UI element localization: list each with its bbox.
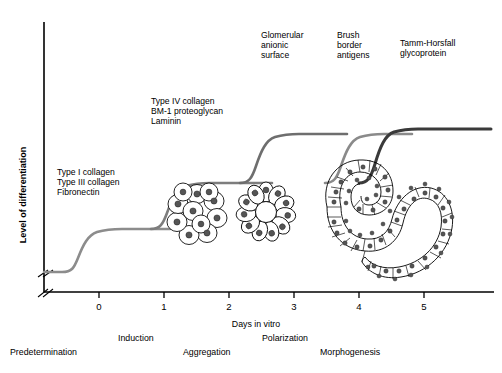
marker-line: BM-1 proteoglycan [151, 106, 223, 116]
curve-step-4 [325, 134, 412, 183]
x-tick-label: 4 [356, 301, 362, 312]
phase-label-morphogenesis: Morphogenesis [320, 347, 381, 357]
marker-line: Type III collagen [57, 177, 120, 187]
marker-line: Type IV collagen [151, 96, 215, 106]
x-tick-label: 2 [226, 301, 231, 312]
y-axis-title: Level of differentiation [18, 147, 28, 244]
x-tick-label: 0 [96, 301, 101, 312]
cell-diagram-rosette [235, 182, 296, 243]
marker-label-step-5: Tamm-Horsfall glycoprotein [400, 38, 455, 58]
curve-step-1 [44, 229, 170, 272]
differentiation-chart: 0 1 2 3 4 5 Days in vitro Level of diffe… [0, 0, 502, 373]
x-tick-label: 5 [421, 301, 426, 312]
phase-label-aggregation: Aggregation [183, 347, 231, 357]
marker-label-step-3: Glomerular anionic surface [261, 30, 304, 60]
phase-label-induction: Induction [118, 333, 154, 343]
x-tick-label: 3 [291, 301, 296, 312]
marker-labels: Type I collagen Type III collagen Fibron… [57, 30, 455, 197]
axis-break-marks [38, 270, 53, 297]
marker-label-step-2: Type IV collagen BM-1 proteoglycan Lamin… [151, 96, 223, 126]
curve-step-5 [359, 129, 491, 183]
marker-line: Fibronectin [57, 187, 100, 197]
x-tick-label: 1 [161, 301, 166, 312]
marker-line: Brush [337, 30, 360, 40]
tubule-walls [326, 160, 453, 278]
marker-line: glycoprotein [400, 48, 447, 58]
figure-container: 0 1 2 3 4 5 Days in vitro Level of diffe… [0, 0, 502, 373]
marker-line: border [337, 40, 362, 50]
marker-line: Tamm-Horsfall [400, 38, 455, 48]
rosette-lumen [256, 202, 277, 223]
cell-diagram-tubule [326, 160, 454, 281]
x-axis-title: Days in vitro [232, 319, 281, 329]
marker-line: Type I collagen [57, 167, 115, 177]
marker-label-step-4: Brush border antigens [337, 30, 370, 60]
marker-line: Glomerular [261, 30, 304, 40]
x-axis-tick-labels: 0 1 2 3 4 5 [96, 301, 426, 312]
x-axis-ticks [99, 292, 424, 298]
marker-line: anionic [261, 40, 289, 50]
phase-label-predetermination: Predetermination [10, 347, 77, 357]
marker-line: surface [261, 50, 289, 60]
marker-line: antigens [337, 50, 370, 60]
marker-line: Laminin [151, 116, 181, 126]
phase-labels: Predetermination Induction Aggregation P… [10, 333, 381, 357]
phase-label-polarization: Polarization [262, 333, 308, 343]
cell-diagram-aggregate [167, 183, 227, 245]
marker-label-step-1: Type I collagen Type III collagen Fibron… [57, 167, 120, 197]
